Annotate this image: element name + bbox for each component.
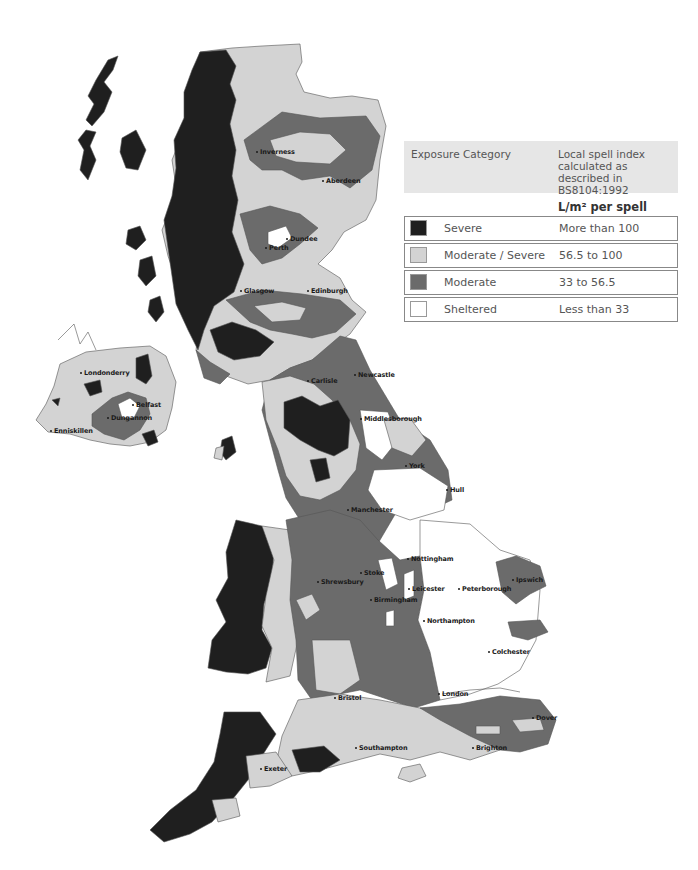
city-label: Nottingham [405, 555, 453, 563]
city-name: Manchester [351, 506, 393, 514]
city-label: Enniskillen [48, 427, 93, 435]
city-label: Stoke [358, 569, 384, 577]
city-name: Glasgow [244, 287, 274, 295]
city-dot-icon [408, 588, 410, 590]
city-name: Newcastle [358, 371, 395, 379]
city-dot-icon [107, 417, 109, 419]
uk-exposure-map [0, 0, 698, 870]
city-dot-icon [256, 151, 258, 153]
city-dot-icon [355, 747, 357, 749]
city-label: Leicester [406, 585, 445, 593]
city-label: Dungannon [105, 414, 152, 422]
city-label: Dundee [284, 235, 318, 243]
city-label: Exeter [258, 765, 287, 773]
city-label: Newcastle [352, 371, 395, 379]
city-name: Birmingham [374, 596, 417, 604]
city-label: Belfast [130, 401, 161, 409]
city-dot-icon [80, 372, 82, 374]
city-dot-icon [532, 717, 534, 719]
city-dot-icon [334, 697, 336, 699]
city-dot-icon [317, 581, 319, 583]
exposure-legend: Exposure Category Local spell index calc… [404, 141, 678, 324]
city-label: Brighton [470, 744, 507, 752]
legend-header-index: Local spell index calculated as describe… [558, 148, 680, 196]
city-name: Brighton [476, 744, 507, 752]
legend-row-moderate: Moderate 33 to 56.5 [404, 270, 678, 295]
city-dot-icon [307, 380, 309, 382]
legend-header: Exposure Category Local spell index calc… [404, 141, 678, 193]
city-label: Inverness [254, 148, 295, 156]
city-name: Middlesborough [364, 415, 422, 423]
city-name: Dundee [290, 235, 318, 243]
city-name: Enniskillen [54, 427, 93, 435]
city-label: Dover [530, 714, 557, 722]
city-label: Ipswich [510, 576, 543, 584]
city-label: Colchester [486, 648, 530, 656]
units-label: L/m² per spell [558, 200, 647, 214]
city-name: Carlisle [311, 377, 338, 385]
city-dot-icon [307, 290, 309, 292]
city-name: Perth [269, 244, 289, 252]
city-label: Southampton [353, 744, 407, 752]
city-dot-icon [240, 290, 242, 292]
city-dot-icon [405, 465, 407, 467]
city-name: Dover [536, 714, 557, 722]
city-label: Northampton [421, 617, 475, 625]
city-dot-icon [446, 489, 448, 491]
city-dot-icon [286, 238, 288, 240]
moderate-swatch [410, 274, 427, 290]
legend-row-sheltered: Sheltered Less than 33 [404, 297, 678, 322]
city-label: Hull [444, 486, 464, 494]
legend-units: L/m² per spell [404, 193, 678, 216]
city-name: Ipswich [516, 576, 543, 584]
legend-category: Moderate / Severe [444, 249, 545, 262]
city-name: Edinburgh [311, 287, 348, 295]
city-name: Shrewsbury [321, 578, 364, 586]
city-dot-icon [260, 768, 262, 770]
city-label: Glasgow [238, 287, 274, 295]
city-name: York [409, 462, 425, 470]
city-dot-icon [472, 747, 474, 749]
city-dot-icon [407, 558, 409, 560]
city-label: Peterborough [456, 585, 511, 593]
city-name: Exeter [264, 765, 287, 773]
city-label: Perth [263, 244, 289, 252]
region-hebrides [86, 56, 118, 126]
city-name: London [442, 690, 468, 698]
city-name: Colchester [492, 648, 530, 656]
city-dot-icon [50, 430, 52, 432]
sheltered-swatch [410, 301, 427, 317]
city-name: Northampton [427, 617, 475, 625]
city-label: Shrewsbury [315, 578, 364, 586]
city-dot-icon [488, 651, 490, 653]
legend-category: Severe [444, 222, 482, 235]
legend-range: More than 100 [559, 222, 639, 235]
city-name: Southampton [359, 744, 407, 752]
city-name: Stoke [364, 569, 384, 577]
city-name: Aberdeen [326, 177, 361, 185]
city-dot-icon [347, 509, 349, 511]
city-label: London [436, 690, 468, 698]
city-dot-icon [423, 620, 425, 622]
legend-row-moderate-severe: Moderate / Severe 56.5 to 100 [404, 243, 678, 268]
city-name: Belfast [136, 401, 161, 409]
region-wales [208, 520, 274, 674]
city-dot-icon [512, 579, 514, 581]
city-dot-icon [322, 180, 324, 182]
city-dot-icon [360, 418, 362, 420]
city-name: Dungannon [111, 414, 152, 422]
city-dot-icon [265, 247, 267, 249]
city-name: Leicester [412, 585, 445, 593]
city-label: Londonderry [78, 369, 130, 377]
city-name: Nottingham [411, 555, 453, 563]
city-label: Middlesborough [358, 415, 422, 423]
city-label: Edinburgh [305, 287, 348, 295]
city-dot-icon [458, 588, 460, 590]
city-label: Carlisle [305, 377, 338, 385]
city-label: Manchester [345, 506, 393, 514]
city-dot-icon [370, 599, 372, 601]
legend-range: 33 to 56.5 [559, 276, 616, 289]
legend-row-severe: Severe More than 100 [404, 216, 678, 241]
legend-category: Moderate [444, 276, 496, 289]
city-name: Londonderry [84, 369, 130, 377]
